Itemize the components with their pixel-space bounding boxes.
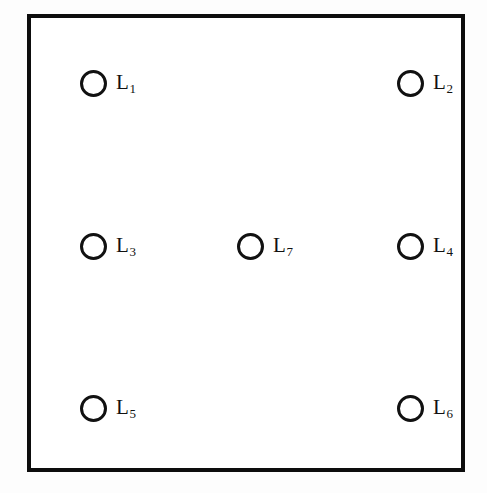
node-L7[interactable]: L7	[237, 233, 293, 260]
node-circle-icon	[237, 233, 264, 260]
node-label-subscript: 7	[287, 244, 294, 259]
node-label-L3: L3	[116, 235, 136, 256]
figure-root: L1 L2 L3 L7 L4 L5 L6	[0, 0, 487, 493]
node-label-subscript: 2	[447, 81, 454, 96]
node-label-subscript: 3	[130, 244, 137, 259]
node-label-L5: L5	[116, 397, 136, 418]
diagram-frame: L1 L2 L3 L7 L4 L5 L6	[27, 14, 465, 472]
node-L3[interactable]: L3	[80, 233, 136, 260]
node-circle-icon	[80, 70, 107, 97]
node-label-base: L	[116, 70, 129, 94]
node-label-base: L	[273, 233, 286, 257]
node-circle-icon	[80, 395, 107, 422]
node-L5[interactable]: L5	[80, 395, 136, 422]
node-label-base: L	[433, 233, 446, 257]
node-label-base: L	[433, 395, 446, 419]
node-label-L1: L1	[116, 72, 136, 93]
node-label-base: L	[116, 233, 129, 257]
node-label-L2: L2	[433, 72, 453, 93]
node-circle-icon	[397, 233, 424, 260]
node-circle-icon	[397, 395, 424, 422]
node-label-L6: L6	[433, 397, 453, 418]
node-L1[interactable]: L1	[80, 70, 136, 97]
node-circle-icon	[80, 233, 107, 260]
node-circle-icon	[397, 70, 424, 97]
node-label-subscript: 5	[130, 406, 137, 421]
node-label-subscript: 1	[130, 81, 137, 96]
node-L4[interactable]: L4	[397, 233, 453, 260]
node-label-base: L	[116, 395, 129, 419]
node-label-base: L	[433, 70, 446, 94]
node-label-L4: L4	[433, 235, 453, 256]
node-label-subscript: 6	[447, 406, 454, 421]
node-label-L7: L7	[273, 235, 293, 256]
node-L2[interactable]: L2	[397, 70, 453, 97]
node-label-subscript: 4	[447, 244, 454, 259]
node-L6[interactable]: L6	[397, 395, 453, 422]
